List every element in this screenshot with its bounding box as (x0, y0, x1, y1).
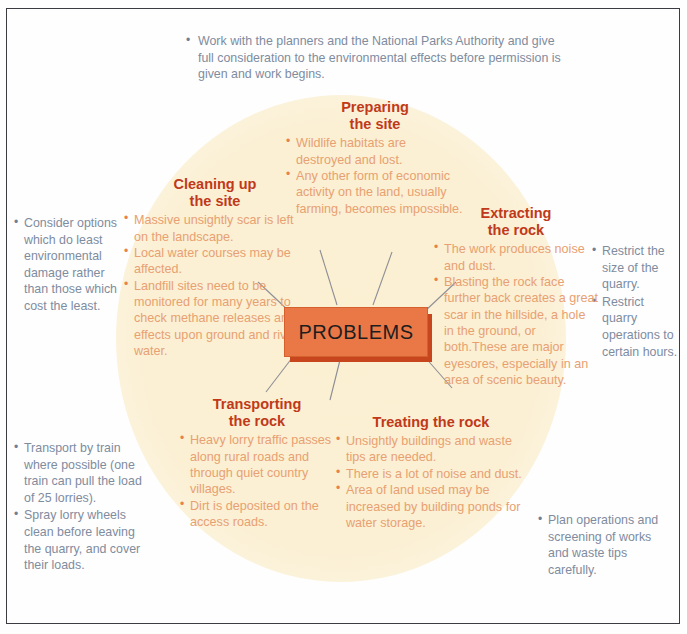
note-right-lower: Plan operations and screening of works a… (538, 512, 674, 579)
section-title-line1: Transporting (213, 396, 302, 412)
section-title-line1: Preparing (341, 99, 409, 115)
section-title-line1: Cleaning up (174, 176, 257, 192)
note-item: Restrict quarry operations to certain ho… (592, 294, 680, 360)
section-bullet: There is a lot of noise and dust. (336, 466, 526, 482)
section-bullet: Landfill sites need to be monitored for … (124, 278, 306, 360)
section-bullet: Unsightly buildings and waste tips are n… (336, 433, 526, 466)
note-item: Plan operations and screening of works a… (538, 512, 674, 578)
connector-preparing-2 (373, 252, 392, 305)
connector-preparing (320, 250, 337, 305)
note-left-lower: Transport by train where possible (one t… (14, 440, 152, 575)
section-title: Treating the rock (336, 414, 526, 431)
note-item: Restrict the size of the quarry. (592, 243, 680, 293)
connector-transporting (266, 358, 292, 392)
section-bullet: Dirt is deposited on the access roads. (180, 498, 334, 531)
note-right-upper: Restrict the size of the quarry. Restric… (592, 243, 680, 361)
section-title-line2: the rock (488, 222, 544, 238)
note-item: Spray lorry wheels clean before leaving … (14, 507, 152, 573)
section-preparing-the-site: Preparing the site Wildlife habitats are… (286, 99, 464, 217)
section-bullet: Massive unsightly scar is left on the la… (124, 212, 306, 245)
section-treating-the-rock: Treating the rock Unsightly buildings an… (336, 414, 526, 531)
section-extracting-the-rock: Extracting the rock The work produces no… (434, 205, 598, 388)
section-title-line2: the rock (229, 413, 285, 429)
note-left-upper: Consider options which do least environm… (14, 215, 118, 316)
diagram-page: Work with the planners and the National … (0, 0, 687, 634)
section-title: Cleaning up the site (124, 176, 306, 210)
section-title-line1: Treating the rock (373, 414, 490, 430)
note-item: Consider options which do least environm… (14, 215, 118, 315)
section-bullet: The work produces noise and dust. (434, 241, 598, 274)
section-transporting-the-rock: Transporting the rock Heavy lorry traffi… (180, 396, 334, 530)
note-item: Transport by train where possible (one t… (14, 440, 152, 506)
section-bullet: Area of land used may be increased by bu… (336, 482, 526, 531)
section-bullet: Heavy lorry traffic passes along rural r… (180, 432, 334, 497)
note-item: Work with the planners and the National … (186, 33, 572, 83)
section-bullet: Blasting the rock face further back crea… (434, 274, 598, 389)
connector-treating-2 (330, 360, 340, 400)
note-top: Work with the planners and the National … (186, 33, 572, 84)
problems-box: PROBLEMS (284, 307, 428, 357)
section-cleaning-up-the-site: Cleaning up the site Massive unsightly s… (124, 176, 306, 359)
section-title: Transporting the rock (180, 396, 334, 430)
section-title: Extracting the rock (434, 205, 598, 239)
section-title-line1: Extracting (481, 205, 552, 221)
section-title: Preparing the site (286, 99, 464, 133)
section-bullet: Wildlife habitats are destroyed and lost… (286, 135, 464, 168)
section-title-line2: the site (190, 193, 241, 209)
problems-label: PROBLEMS (298, 321, 413, 344)
section-title-line2: the site (350, 116, 401, 132)
section-bullet: Local water courses may be affected. (124, 245, 306, 278)
